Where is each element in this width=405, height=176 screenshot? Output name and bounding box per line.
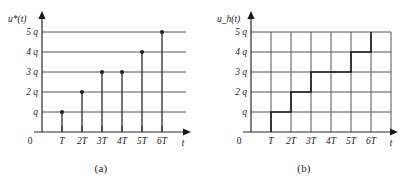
figure-caption-a: (a) (0, 162, 202, 174)
y-tick-5q-b: 5 q (235, 27, 247, 37)
y-axis-label-b: u_h(t) (217, 14, 240, 25)
y-tick-5q-a: 5 q (26, 27, 38, 37)
x-tick-2T-a: 2T (77, 136, 88, 146)
figure-b: u_h(t) 5 q 4 q 3 q (203, 0, 405, 176)
x-axis-arrow-a (183, 128, 191, 135)
x-tick-4T-a: 4T (117, 136, 128, 146)
vertical-gridlines-b (271, 32, 391, 132)
figure-caption-b: (b) (203, 162, 405, 174)
horizontal-gridlines-a (42, 32, 186, 112)
y-tick-1q-a: q (33, 107, 38, 117)
staircase-plot-svg: u_h(t) 5 q 4 q 3 q (203, 0, 405, 152)
x-axis-b (243, 128, 398, 135)
y-tick-3q-b: 3 q (234, 67, 247, 77)
x-axis-label-b: t (390, 138, 393, 148)
x-tick-3T-b: 3T (305, 136, 317, 146)
y-tick-2q-a: 2 q (26, 87, 38, 97)
x-tick-T-b: T (268, 136, 274, 146)
stem-dot-2T (80, 90, 84, 94)
y-axis-arrow-b (247, 11, 254, 19)
y-tick-4q-a: 4 q (26, 47, 38, 57)
x-axis-label-a: t (182, 138, 185, 148)
y-tick-1q-b: q (242, 107, 247, 117)
stem-dot-3T (100, 70, 104, 74)
x-axis-arrow-b (390, 128, 398, 135)
stems-a (60, 30, 164, 132)
staircase-trace (271, 32, 371, 132)
y-tick-4q-b: 4 q (235, 47, 247, 57)
y-axis-label-a: u*(t) (8, 14, 26, 25)
figure-b-plot-area: u_h(t) 5 q 4 q 3 q (203, 0, 405, 152)
figure-a: u*(t) 5 q 4 q 3 q 2 q q (0, 0, 202, 176)
x-tick-3T-a: 3T (96, 136, 108, 146)
stem-dot-T (60, 110, 64, 114)
x-tick-marks-a (62, 126, 162, 132)
x-tick-5T-b: 5T (346, 136, 357, 146)
x-axis-a (34, 128, 191, 135)
x-tick-2T-b: 2T (286, 136, 297, 146)
stem-plot-svg: u*(t) 5 q 4 q 3 q 2 q q (0, 0, 202, 152)
x-tick-5T-a: 5T (137, 136, 148, 146)
stem-dot-5T (140, 50, 144, 54)
stem-dot-6T (160, 30, 164, 34)
y-tick-2q-b: 2 q (235, 87, 247, 97)
x-tick-6T-b: 6T (366, 136, 377, 146)
x-tick-T-a: T (59, 136, 65, 146)
y-tick-3q-a: 3 q (25, 67, 38, 77)
y-axis-arrow-a (38, 11, 45, 19)
x-tick-4T-b: 4T (326, 136, 337, 146)
x-tick-6T-a: 6T (157, 136, 168, 146)
origin-label-a: 0 (28, 136, 33, 146)
figure-a-plot-area: u*(t) 5 q 4 q 3 q 2 q q (0, 0, 202, 152)
origin-label-b: 0 (237, 136, 242, 146)
stem-dot-4T (120, 70, 124, 74)
